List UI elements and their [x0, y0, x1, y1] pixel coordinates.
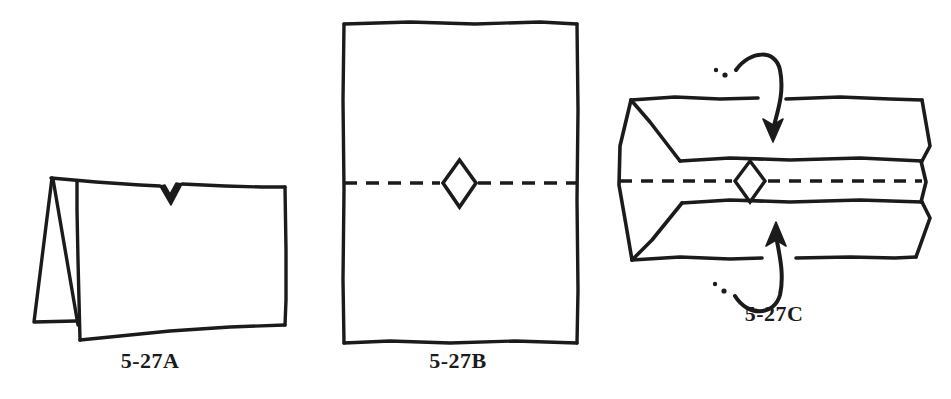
sheet-top-edge — [344, 22, 577, 24]
figure-5-27B-drawing — [300, 0, 630, 399]
lower-right-edge — [916, 202, 930, 257]
diamond-aperture-icon — [443, 160, 476, 207]
caption-5-27C: 5-27C — [714, 301, 834, 327]
bottom-edge — [80, 325, 285, 340]
top-arrow-dot-2 — [714, 68, 718, 72]
bottom-fold-arrow — [713, 222, 786, 311]
figure-5-27A — [0, 0, 330, 399]
sheet-bottom-edge — [344, 341, 577, 343]
upper-near-edge — [680, 158, 922, 161]
diamond-aperture-icon — [735, 161, 765, 202]
upper-far-edge-right — [786, 97, 922, 100]
lower-near-edge-left — [632, 257, 762, 260]
figure-5-27B — [300, 0, 630, 399]
top-edge-left — [51, 178, 160, 186]
sheet-left-edge — [343, 24, 344, 343]
bottom-arrow-dot-1 — [721, 288, 726, 293]
sheet-right-edge — [577, 24, 578, 343]
caption-5-27B: 5-27B — [398, 348, 518, 374]
top-arrow-dot-1 — [722, 72, 727, 77]
figure-5-27A-drawing — [0, 0, 330, 399]
right-edge — [285, 187, 286, 325]
bottom-arrow-dot-2 — [713, 282, 717, 286]
figure-5-27C-drawing — [610, 0, 951, 399]
spine-fold-crease — [53, 179, 78, 325]
lower-far-edge — [682, 200, 922, 203]
upper-far-edge-left — [631, 97, 758, 100]
caption-5-27A: 5-27A — [90, 348, 210, 374]
top-fold-arrow-shaft — [736, 55, 781, 130]
upper-left-edge — [631, 100, 680, 161]
top-edge-right — [182, 184, 285, 187]
upper-right-edge — [922, 100, 930, 161]
v-notch-icon — [160, 183, 182, 205]
diagram-page: 5-27A 5-27B — [0, 0, 951, 399]
lower-left-edge — [632, 203, 682, 260]
bottom-fold-arrow-shaft — [735, 235, 782, 311]
lower-near-edge-right — [796, 257, 916, 258]
figure-5-27C — [610, 0, 951, 399]
